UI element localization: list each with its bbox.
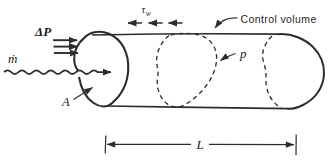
inlet-cross-section xyxy=(74,32,128,107)
mass-flow-label: ṁ xyxy=(8,51,17,66)
wall-shear-subscript: w xyxy=(146,9,151,18)
pressure-cross-section xyxy=(157,33,217,107)
length-dimension-tick-left xyxy=(105,136,106,154)
control-volume-label: Control volume xyxy=(241,13,317,25)
control-volume-leader-arrow xyxy=(215,18,238,28)
mass-flow-arrow xyxy=(4,70,111,74)
area-label: A xyxy=(61,95,70,109)
pressure-label: p xyxy=(239,46,247,61)
length-label: L xyxy=(196,137,204,152)
pressure-drop-label: ΔP xyxy=(34,24,52,39)
pipe-control-volume-diagram: ΔP τw Control volume ṁ p A L xyxy=(0,0,328,165)
pipe-control-volume-figure: ΔP τw Control volume ṁ p A L xyxy=(0,0,328,165)
pipe-bottom-edge xyxy=(107,106,289,109)
outlet-cross-section xyxy=(279,34,325,109)
pressure-leader-arrow xyxy=(221,54,236,61)
pipe-top-edge xyxy=(92,34,279,35)
outlet-cross-section-hidden-edge xyxy=(263,36,282,108)
wall-shear-label: τw xyxy=(142,4,151,18)
